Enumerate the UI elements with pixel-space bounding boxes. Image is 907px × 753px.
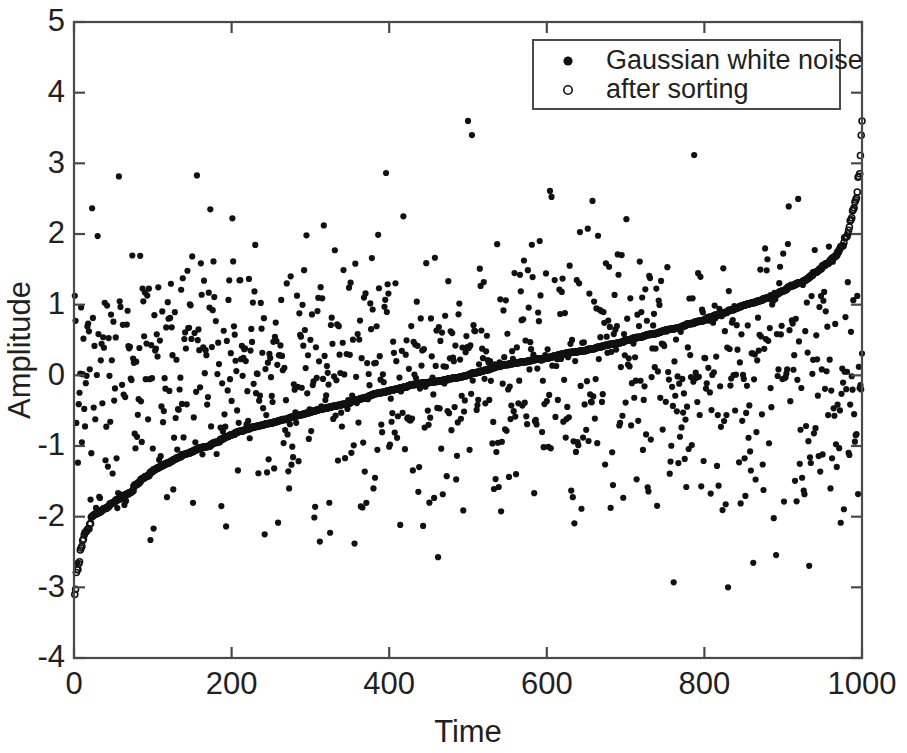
data-point-noise — [192, 439, 198, 445]
data-point-noise — [110, 470, 116, 476]
data-point-noise — [437, 405, 443, 411]
data-point-noise — [725, 584, 731, 590]
data-point-noise — [822, 386, 828, 392]
data-point-noise — [204, 402, 210, 408]
data-point-noise — [294, 293, 300, 299]
data-point-noise — [784, 366, 790, 372]
data-point-noise — [477, 266, 483, 272]
data-point-noise — [183, 345, 189, 351]
data-point-noise — [773, 552, 779, 558]
data-point-noise — [211, 294, 217, 300]
legend-label-after-sorting: after sorting — [606, 74, 749, 104]
data-point-noise — [852, 439, 858, 445]
data-point-noise — [248, 326, 254, 332]
data-point-noise — [316, 358, 322, 364]
data-point-noise — [639, 294, 645, 300]
data-point-noise — [713, 353, 719, 359]
data-point-noise — [647, 275, 653, 281]
data-point-noise — [106, 335, 112, 341]
data-point-noise — [347, 280, 353, 286]
data-point-noise — [585, 438, 591, 444]
data-point-noise — [689, 295, 695, 301]
data-point-noise — [433, 363, 439, 369]
data-point-noise — [303, 232, 309, 238]
data-point-noise — [827, 357, 833, 363]
data-point-noise — [384, 309, 390, 315]
data-point-noise — [812, 425, 818, 431]
data-point-noise — [570, 494, 576, 500]
data-point-noise — [821, 289, 827, 295]
data-point-noise — [324, 363, 330, 369]
data-point-noise — [855, 491, 861, 497]
data-point-noise — [362, 468, 368, 474]
data-point-noise — [845, 279, 851, 285]
data-point-noise — [221, 328, 227, 334]
data-point-noise — [370, 306, 376, 312]
chart-legend[interactable]: Gaussian white noise after sorting — [533, 40, 863, 109]
data-point-noise — [609, 449, 615, 455]
data-point-noise — [753, 429, 759, 435]
data-point-noise — [356, 337, 362, 343]
data-point-noise — [453, 476, 459, 482]
data-point-noise — [756, 348, 762, 354]
data-point-noise — [681, 390, 687, 396]
data-point-noise — [817, 468, 823, 474]
data-point-noise — [173, 415, 179, 421]
data-point-noise — [786, 203, 792, 209]
data-point-noise — [472, 328, 478, 334]
data-point-noise — [299, 302, 305, 308]
data-point-noise — [741, 455, 747, 461]
data-point-noise — [547, 188, 553, 194]
data-point-noise — [122, 394, 128, 400]
data-point-noise — [634, 476, 640, 482]
data-point-noise — [229, 398, 235, 404]
data-point-noise — [561, 377, 567, 383]
data-point-noise — [687, 352, 693, 358]
data-point-noise — [747, 448, 753, 454]
data-point-noise — [465, 118, 471, 124]
data-point-noise — [303, 365, 309, 371]
data-point-noise — [421, 346, 427, 352]
data-point-noise — [667, 471, 673, 477]
data-point-noise — [571, 520, 577, 526]
data-point-noise — [518, 288, 524, 294]
data-point-noise — [262, 366, 268, 372]
y-tick-label: 2 — [48, 215, 65, 250]
y-tick-label: 1 — [48, 286, 65, 321]
data-point-noise — [599, 399, 605, 405]
data-point-noise — [638, 309, 644, 315]
data-point-noise — [656, 302, 662, 308]
data-point-noise — [393, 358, 399, 364]
data-point-noise — [154, 353, 160, 359]
data-point-noise — [825, 412, 831, 418]
data-point-noise — [841, 506, 847, 512]
data-point-noise — [654, 503, 660, 509]
data-point-noise — [667, 458, 673, 464]
data-point-noise — [734, 347, 740, 353]
data-point-noise — [99, 400, 105, 406]
data-point-noise — [216, 361, 222, 367]
data-point-noise — [127, 344, 133, 350]
data-point-noise — [400, 410, 406, 416]
data-point-noise — [154, 331, 160, 337]
data-point-noise — [714, 463, 720, 469]
data-point-noise — [569, 337, 575, 343]
data-point-noise — [737, 359, 743, 365]
data-point-noise — [517, 272, 523, 278]
data-point-noise — [222, 424, 228, 430]
data-point-noise — [141, 333, 147, 339]
data-point-noise — [244, 388, 250, 394]
data-point-noise — [642, 286, 648, 292]
data-point-noise — [132, 445, 138, 451]
data-point-noise — [263, 412, 269, 418]
data-point-noise — [673, 336, 679, 342]
data-point-noise — [683, 484, 689, 490]
data-point-noise — [284, 280, 290, 286]
data-point-noise — [481, 376, 487, 382]
data-point-noise — [694, 399, 700, 405]
data-point-noise — [604, 334, 610, 340]
data-point-noise — [138, 398, 144, 404]
data-point-noise — [697, 412, 703, 418]
data-point-noise — [840, 380, 846, 386]
data-point-noise — [113, 334, 119, 340]
